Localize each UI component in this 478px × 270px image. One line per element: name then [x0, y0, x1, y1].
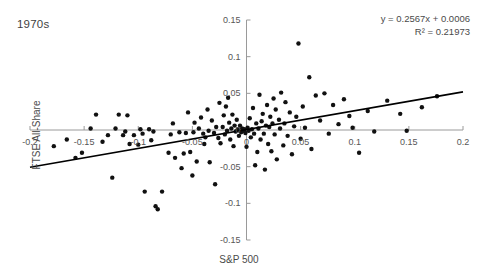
- data-point: [252, 131, 256, 135]
- data-point: [398, 112, 402, 116]
- scatter-chart: 1970s y = 0.2567x + 0.0006 R² = 0.21973 …: [0, 0, 478, 270]
- data-point: [254, 121, 258, 125]
- data-point: [190, 173, 194, 177]
- data-point: [281, 143, 285, 147]
- data-point: [171, 121, 175, 125]
- data-point: [182, 151, 186, 155]
- data-point: [147, 127, 151, 131]
- data-point: [100, 140, 104, 144]
- y-tick-label: 0.05: [211, 88, 241, 98]
- data-point: [350, 126, 354, 130]
- data-point: [294, 115, 298, 119]
- data-point: [216, 136, 220, 140]
- data-point: [257, 93, 261, 97]
- data-point: [322, 91, 326, 95]
- data-point: [195, 159, 199, 163]
- data-point: [271, 96, 275, 100]
- data-point: [259, 119, 263, 123]
- data-point: [420, 105, 424, 109]
- data-point: [249, 135, 253, 139]
- x-tick-label: 0.05: [292, 137, 310, 147]
- data-point: [405, 129, 409, 133]
- data-point: [248, 116, 252, 120]
- data-point: [231, 144, 235, 148]
- data-point: [265, 103, 269, 107]
- data-point: [301, 104, 305, 108]
- data-point: [278, 126, 282, 130]
- data-point: [228, 137, 232, 141]
- data-point: [217, 101, 221, 105]
- data-point: [272, 132, 276, 136]
- data-point: [179, 166, 183, 170]
- data-point: [275, 157, 279, 161]
- data-point: [123, 129, 127, 133]
- data-point: [372, 129, 376, 133]
- data-point: [140, 131, 144, 135]
- y-tick-label: 0: [211, 125, 241, 135]
- data-point: [279, 90, 283, 94]
- x-tick-label: -0.05: [182, 137, 203, 147]
- data-point: [253, 163, 257, 167]
- data-point: [197, 126, 201, 130]
- data-point: [336, 122, 340, 126]
- x-tick-label: -0.15: [74, 137, 95, 147]
- data-point: [262, 131, 266, 135]
- x-tick-label: 0: [244, 137, 249, 147]
- x-tick-label: 0.2: [457, 137, 470, 147]
- data-point: [309, 147, 313, 151]
- data-point: [213, 182, 217, 186]
- data-point: [296, 41, 300, 45]
- y-axis-title: FTSE All-Share: [31, 101, 42, 170]
- data-point: [283, 100, 287, 104]
- data-point: [186, 110, 190, 114]
- data-point: [113, 126, 117, 130]
- data-point: [230, 112, 234, 116]
- data-point: [94, 112, 98, 116]
- data-point: [251, 106, 255, 110]
- data-point: [202, 142, 206, 146]
- data-point: [318, 118, 322, 122]
- y-tick-label: -0.05: [211, 162, 241, 172]
- x-tick-label: 0.1: [348, 137, 361, 147]
- data-points: [52, 41, 440, 211]
- data-point: [268, 115, 272, 119]
- data-point: [303, 126, 307, 130]
- data-point: [307, 75, 311, 79]
- y-tick-label: 0.15: [211, 15, 241, 25]
- data-point: [385, 98, 389, 102]
- data-point: [210, 118, 214, 122]
- data-point: [342, 97, 346, 101]
- data-point: [258, 137, 262, 141]
- data-point: [218, 141, 222, 145]
- data-point: [166, 151, 170, 155]
- data-point: [224, 104, 228, 108]
- data-point: [290, 152, 294, 156]
- data-point: [292, 124, 296, 128]
- data-point: [222, 113, 226, 117]
- plot-area: [0, 0, 478, 270]
- data-point: [191, 130, 195, 134]
- data-point: [274, 107, 278, 111]
- x-tick-label: -0.1: [130, 137, 146, 147]
- x-axis-title: S&P 500: [219, 254, 258, 265]
- x-tick-label: 0.15: [400, 137, 418, 147]
- data-point: [261, 112, 265, 116]
- data-point: [235, 118, 239, 122]
- data-point: [255, 150, 259, 154]
- data-point: [110, 175, 114, 179]
- y-tick-label: -0.15: [211, 235, 241, 245]
- data-point: [184, 131, 188, 135]
- data-point: [65, 137, 69, 141]
- data-point: [156, 207, 160, 211]
- data-point: [160, 189, 164, 193]
- data-point: [143, 189, 147, 193]
- data-point: [188, 150, 192, 154]
- data-point: [327, 131, 331, 135]
- data-point: [151, 129, 155, 133]
- data-point: [173, 156, 177, 160]
- data-point: [149, 138, 153, 142]
- data-point: [52, 144, 56, 148]
- data-point: [263, 167, 267, 171]
- y-tick-label: -0.1: [211, 198, 241, 208]
- data-point: [285, 134, 289, 138]
